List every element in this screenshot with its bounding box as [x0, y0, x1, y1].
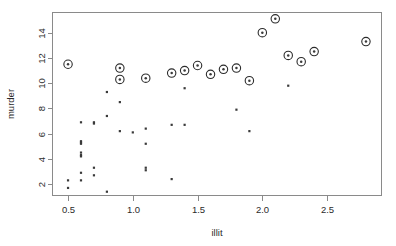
- y-tick-label: 12: [36, 53, 47, 64]
- highlighted-data-point: [258, 28, 266, 36]
- point-marker: [261, 31, 264, 34]
- point-marker: [119, 67, 122, 70]
- data-point: [80, 155, 82, 157]
- data-point: [67, 179, 69, 181]
- data-point: [93, 167, 95, 169]
- data-point: [119, 130, 121, 132]
- data-point: [132, 131, 134, 133]
- plot-frame: [53, 13, 382, 196]
- highlighted-data-point: [116, 75, 124, 83]
- highlighted-data-point: [180, 66, 188, 74]
- y-tick-label: 6: [36, 132, 47, 137]
- y-tick-label: 4: [36, 157, 47, 162]
- point-marker: [365, 40, 368, 43]
- point-marker: [183, 69, 186, 72]
- point-marker: [287, 54, 290, 57]
- point-marker: [274, 18, 277, 21]
- data-point: [184, 124, 186, 126]
- highlighted-data-point: [206, 70, 214, 78]
- data-point: [235, 109, 237, 111]
- data-point: [106, 115, 108, 117]
- data-point: [67, 187, 69, 189]
- data-point: [106, 191, 108, 193]
- y-tick-label: 14: [36, 28, 47, 39]
- x-tick-label: 2.5: [321, 204, 334, 215]
- highlighted-data-point: [310, 47, 318, 55]
- data-point: [287, 85, 289, 87]
- y-axis-tick-labels: 2468101214: [36, 28, 47, 187]
- x-tick-label: 1.0: [127, 204, 140, 215]
- highlighted-data-point: [116, 64, 124, 72]
- data-point: [80, 172, 82, 174]
- highlighted-data-point: [232, 64, 240, 72]
- point-marker: [145, 77, 148, 80]
- highlighted-data-point: [284, 51, 292, 59]
- data-point: [80, 121, 82, 123]
- highlighted-data-point: [193, 61, 201, 69]
- x-tick-label: 1.5: [192, 204, 205, 215]
- point-marker: [248, 79, 251, 82]
- x-tick-label: 0.5: [62, 204, 75, 215]
- data-point: [145, 143, 147, 145]
- data-points-layer: [67, 85, 289, 193]
- data-point: [93, 174, 95, 176]
- data-point: [171, 178, 173, 180]
- highlighted-data-point: [362, 37, 370, 45]
- point-marker: [209, 73, 212, 76]
- x-tick-label: 2.0: [256, 204, 269, 215]
- point-marker: [222, 68, 225, 71]
- highlighted-data-point: [219, 65, 227, 73]
- data-point: [80, 143, 82, 145]
- point-marker: [313, 50, 316, 53]
- highlighted-data-point: [297, 58, 305, 66]
- point-marker: [67, 63, 70, 66]
- data-point: [80, 179, 82, 181]
- highlighted-data-point: [142, 74, 150, 82]
- point-marker: [235, 67, 238, 70]
- y-tick-label: 10: [36, 78, 47, 89]
- plot-border: [53, 13, 382, 196]
- highlighted-data-point: [64, 60, 72, 68]
- y-tick-label: 8: [36, 106, 47, 111]
- highlighted-data-point: [167, 69, 175, 77]
- y-axis-ticks: [48, 34, 53, 185]
- data-point: [171, 124, 173, 126]
- scatter-plot-figure: 0.51.01.52.02.5 2468101214 illit murder: [0, 0, 396, 246]
- point-marker: [300, 60, 303, 63]
- point-marker: [196, 64, 199, 67]
- highlighted-data-point: [245, 76, 253, 84]
- data-point: [145, 167, 147, 169]
- data-point: [80, 151, 82, 153]
- x-axis-title: illit: [211, 227, 222, 238]
- x-axis-tick-labels: 0.51.01.52.02.5: [62, 204, 334, 215]
- data-point: [184, 87, 186, 89]
- point-marker: [119, 78, 122, 81]
- data-point: [119, 101, 121, 103]
- highlighted-points-layer: [64, 15, 370, 85]
- y-axis-title: murder: [5, 89, 16, 119]
- data-point: [145, 128, 147, 130]
- data-point: [93, 122, 95, 124]
- data-point: [106, 91, 108, 93]
- chart-canvas: 0.51.01.52.02.5 2468101214 illit murder: [0, 0, 396, 246]
- data-point: [248, 130, 250, 132]
- highlighted-data-point: [271, 15, 279, 23]
- data-point: [145, 169, 147, 171]
- x-axis-ticks: [69, 196, 328, 201]
- point-marker: [170, 72, 173, 75]
- y-tick-label: 2: [36, 182, 47, 187]
